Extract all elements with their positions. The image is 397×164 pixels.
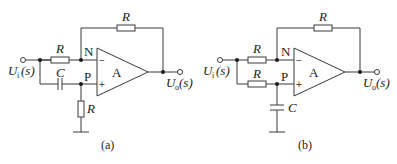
output-terminal [375,70,380,75]
node-n-label: N [281,44,291,59]
plus-sign: + [296,79,302,90]
caption-a: (a) [101,138,114,152]
output-terminal [178,70,183,75]
caption-b: (b) [298,138,312,152]
feedback-resistor [314,25,332,31]
minus-sign: − [296,55,302,66]
svg-text:(s): (s) [376,75,390,90]
label-input-r: R [252,41,261,56]
plus-sign: + [99,79,105,90]
svg-text:i: i [17,71,20,80]
node-p-label: P [281,69,288,84]
input-resistor [51,57,69,63]
circuit-a: R R C R N P − + A U i (s) U o (s) (a) [8,9,193,152]
svg-text:(s): (s) [216,63,230,78]
label-feedback-r: R [318,9,327,24]
svg-text:i: i [212,71,215,80]
label-c: C [288,100,297,115]
label-series-r: R [252,66,261,81]
svg-text:(s): (s) [21,63,35,78]
opamp-label: A [112,65,122,80]
label-feedback-r: R [121,9,130,24]
node-n-label: N [84,44,94,59]
svg-text:(s): (s) [179,75,193,90]
node-p-label: P [84,69,91,84]
feedback-resistor [117,25,135,31]
circuit-b: R R R C N P − + A U i (s) U o (s) (b) [203,9,390,152]
minus-sign: − [99,55,105,66]
label-input-r: R [55,41,64,56]
input-terminal [218,58,223,63]
input-resistor [248,57,266,63]
series-resistor [248,81,266,87]
label-c: C [56,65,65,80]
circuit-diagrams: R R C R N P − + A U i (s) U o (s) (a) [0,0,397,164]
label-ground-r: R [86,101,95,116]
opamp-label: A [309,65,319,80]
input-terminal [21,58,26,63]
ground-resistor [78,101,84,117]
